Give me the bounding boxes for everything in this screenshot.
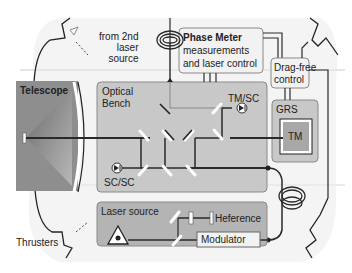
- telescope-label: Telescope: [20, 85, 68, 96]
- sc-sc-label: SC/SC: [104, 177, 135, 188]
- modulator-label: Modulator: [201, 234, 245, 245]
- label-from-laser-1: from 2nd: [99, 31, 138, 42]
- label-from-laser-2: laser: [99, 42, 138, 53]
- phase-meter-title: Phase Meter: [183, 32, 242, 43]
- phase-meter-sub2: and laser control: [183, 58, 257, 69]
- label-from-laser: from 2nd laser source: [99, 31, 138, 64]
- thrusters-label: Thrusters: [16, 237, 58, 248]
- tm-label: TM: [288, 131, 302, 142]
- reference-label: Heference: [215, 213, 261, 224]
- optical-bench-label2: Bench: [102, 98, 130, 109]
- grs-label: GRS: [276, 104, 298, 115]
- phase-meter-sub1: measurements: [183, 45, 249, 56]
- drag-free-label2: control: [274, 74, 304, 85]
- tm-sc-label: TM/SC: [228, 93, 259, 104]
- laser-source-label: Laser source: [101, 206, 159, 217]
- label-from-laser-3: source: [99, 53, 138, 64]
- drag-free-label1: Drag-free: [274, 62, 316, 73]
- optical-bench-label1: Optical: [102, 86, 133, 97]
